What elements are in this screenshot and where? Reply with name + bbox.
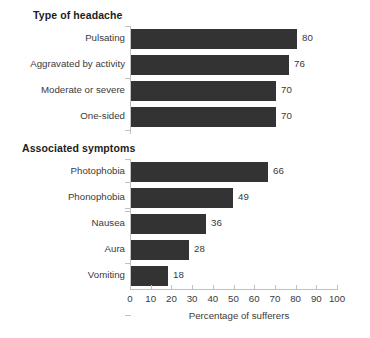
bar-value-label: 66 [273, 165, 284, 176]
value-axis-tick [275, 285, 276, 290]
category-tick [125, 159, 131, 160]
value-axis-tick [213, 285, 214, 290]
bar-value-label: 70 [281, 110, 292, 121]
bar-value-label: 80 [302, 32, 313, 43]
category-tick [125, 26, 131, 27]
plot-area-type-of-headache: Pulsating 80 Aggravated by activity 76 M… [0, 26, 370, 134]
bar-row: Pulsating 80 [0, 26, 370, 52]
value-axis-tick [296, 285, 297, 290]
category-label: Moderate or severe [41, 84, 125, 95]
bar-value-label: 28 [194, 243, 205, 254]
value-axis-tick [171, 285, 172, 290]
bar [131, 240, 189, 260]
bar-row: One-sided 70 [0, 104, 370, 130]
value-axis-tick-label: 60 [249, 293, 260, 304]
value-axis-tick [234, 285, 235, 290]
bar [131, 188, 233, 208]
bar [131, 29, 297, 49]
bar-value-label: 49 [238, 191, 249, 202]
value-axis-tick [337, 285, 338, 290]
bar [131, 55, 289, 75]
category-label: Vomiting [88, 269, 125, 280]
bar-row: Photophobia 66 [0, 159, 370, 185]
bar [131, 107, 276, 127]
group-title-associated-symptoms: Associated symptoms [22, 142, 135, 154]
category-label: Aggravated by activity [30, 58, 125, 69]
bar-chart-figure: Type of headache Pulsating 80 Aggravated… [0, 0, 370, 338]
value-axis: 0102030405060708090100 Percentage of suf… [0, 289, 370, 338]
value-axis-tick-label: 20 [166, 293, 177, 304]
value-axis-tick-label: 50 [228, 293, 239, 304]
bar-row: Aura 28 [0, 237, 370, 263]
bar [131, 162, 268, 182]
bar-value-label: 18 [173, 269, 184, 280]
bar-row: Moderate or severe 70 [0, 78, 370, 104]
group-title-type-of-headache: Type of headache [33, 9, 123, 21]
bar [131, 214, 206, 234]
value-axis-tick-label: 70 [270, 293, 281, 304]
value-axis-tick [254, 285, 255, 290]
value-axis-tick-label: 30 [187, 293, 198, 304]
bar-value-label: 76 [294, 58, 305, 69]
bar [131, 81, 276, 101]
value-axis-tick-label: 90 [311, 293, 322, 304]
bar-row: Vomiting 18 [0, 263, 370, 289]
bar-row: Phonophobia 49 [0, 185, 370, 211]
plot-area-associated-symptoms: Photophobia 66 Phonophobia 49 Nausea 36 … [0, 159, 370, 289]
value-axis-tick [192, 285, 193, 290]
value-axis-tick [151, 285, 152, 290]
bar-value-label: 36 [211, 217, 222, 228]
bar [131, 266, 168, 286]
bar-row: Nausea 36 [0, 211, 370, 237]
bar-value-label: 70 [281, 84, 292, 95]
value-axis-tick-label: 40 [207, 293, 218, 304]
value-axis-tick-label: 80 [290, 293, 301, 304]
category-label: Photophobia [71, 165, 125, 176]
category-label: Nausea [92, 217, 125, 228]
category-label: Pulsating [85, 32, 125, 43]
value-axis-tick [130, 285, 131, 290]
category-tick [125, 130, 131, 131]
value-axis-tick [316, 285, 317, 290]
bar-row: Aggravated by activity 76 [0, 52, 370, 78]
category-label: One-sided [80, 110, 125, 121]
value-axis-tick-label: 100 [329, 293, 345, 304]
category-label: Aura [105, 243, 125, 254]
category-label: Phonophobia [68, 191, 125, 202]
value-axis-tick-label: 10 [145, 293, 156, 304]
value-axis-title-text: Percentage of sufferers [189, 310, 290, 321]
value-axis-title: Percentage of sufferers [0, 310, 370, 321]
value-axis-tick-label: 0 [127, 293, 132, 304]
